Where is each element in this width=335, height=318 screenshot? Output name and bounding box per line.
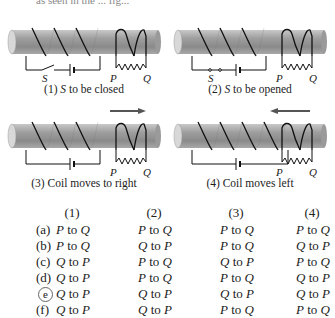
option-label: e bbox=[38, 287, 53, 302]
current-direction-cell: Q to P bbox=[138, 286, 198, 302]
current-direction-cell: P to Q bbox=[296, 222, 335, 238]
panel-4: PQ(4) Coil moves left bbox=[170, 108, 330, 203]
column-header: (1) bbox=[42, 205, 102, 221]
current-direction-cell: P to Q bbox=[220, 270, 280, 286]
column-header: (2) bbox=[124, 205, 184, 221]
resistor-icon bbox=[282, 150, 312, 164]
resistor-icon bbox=[116, 56, 146, 70]
current-direction-cell: P to Q bbox=[56, 238, 116, 254]
arrow-right-icon bbox=[110, 108, 146, 114]
current-direction-cell: Q to P bbox=[138, 302, 198, 318]
cut-off-text: as seen in the ... fig... bbox=[36, 0, 129, 6]
answer-option-row[interactable]: eQ to PQ to PQ to PQ to P bbox=[0, 286, 328, 302]
option-label: (d) bbox=[36, 270, 58, 286]
primary-circuit bbox=[192, 150, 288, 170]
answer-option-row[interactable]: (f)Q to PQ to PP to QP to Q bbox=[0, 302, 328, 318]
iron-rod bbox=[174, 30, 327, 54]
current-direction-cell: P to Q bbox=[220, 302, 280, 318]
primary-circuit bbox=[26, 56, 100, 76]
panel-caption: (4) Coil moves left bbox=[170, 177, 330, 189]
iron-rod bbox=[8, 124, 161, 148]
column-header: (4) bbox=[282, 205, 335, 221]
resistor-icon bbox=[116, 150, 146, 164]
current-direction-cell: Q to P bbox=[56, 302, 116, 318]
current-direction-cell: Q to P bbox=[56, 254, 116, 270]
current-direction-cell: Q to P bbox=[138, 238, 198, 254]
primary-circuit bbox=[26, 150, 100, 170]
current-direction-cell: Q to P bbox=[296, 286, 335, 302]
panel-2: SPQ(2) S to be opened bbox=[170, 14, 330, 109]
answer-option-row[interactable]: (a)P to QP to QP to QP to Q bbox=[0, 222, 328, 238]
current-direction-cell: Q to P bbox=[220, 286, 280, 302]
current-direction-cell: P to Q bbox=[220, 238, 280, 254]
arrow-left-icon bbox=[270, 108, 310, 114]
current-direction-cell: P to Q bbox=[56, 222, 116, 238]
option-label: (c) bbox=[36, 254, 58, 270]
current-direction-cell: P to Q bbox=[138, 254, 198, 270]
current-direction-cell: P to Q bbox=[138, 222, 198, 238]
primary-circuit bbox=[192, 56, 266, 76]
current-direction-cell: Q to P bbox=[220, 254, 280, 270]
answer-option-row[interactable]: (c)Q to PP to QQ to PP to Q bbox=[0, 254, 328, 270]
answer-option-row[interactable]: (d)Q to PP to QP to QQ to P bbox=[0, 270, 328, 286]
panel-1: SPQ(1) S to be closed bbox=[4, 14, 164, 109]
panel-caption: (3) Coil moves to right bbox=[4, 177, 164, 189]
option-label: (f) bbox=[36, 302, 58, 318]
iron-rod bbox=[174, 124, 327, 148]
panel-caption: (1) S to be closed bbox=[4, 83, 164, 95]
current-direction-cell: P to Q bbox=[296, 302, 335, 318]
panel-3: PQ(3) Coil moves to right bbox=[4, 108, 164, 203]
current-direction-cell: P to Q bbox=[296, 254, 335, 270]
resistor-icon bbox=[282, 56, 312, 70]
current-direction-cell: Q to P bbox=[56, 286, 116, 302]
current-direction-cell: P to Q bbox=[138, 270, 198, 286]
option-label: (a) bbox=[36, 222, 58, 238]
current-direction-cell: Q to P bbox=[296, 238, 335, 254]
column-header: (3) bbox=[206, 205, 266, 221]
iron-rod bbox=[8, 30, 161, 54]
panel-caption: (2) S to be opened bbox=[170, 83, 330, 95]
option-label: (b) bbox=[36, 238, 58, 254]
current-direction-cell: Q to P bbox=[296, 270, 335, 286]
current-direction-cell: P to Q bbox=[220, 222, 280, 238]
answer-option-row[interactable]: (b)P to QQ to PP to QQ to P bbox=[0, 238, 328, 254]
current-direction-cell: Q to P bbox=[56, 270, 116, 286]
